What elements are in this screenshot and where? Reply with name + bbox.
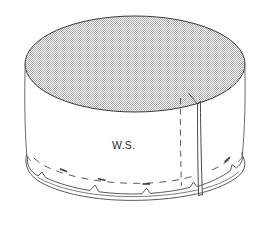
figure-root: W.S. [0, 0, 268, 225]
top-disc [25, 16, 245, 112]
ws-annotation-label: W.S. [112, 139, 135, 151]
cylinder-diagram [0, 0, 268, 225]
right-wall-edge [242, 64, 245, 158]
